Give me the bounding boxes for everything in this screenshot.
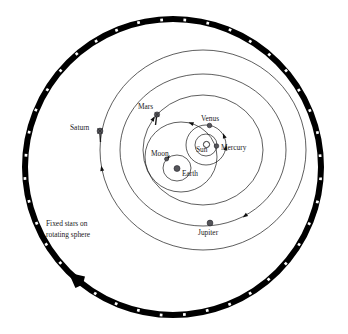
jupiter-direction-arrow	[243, 213, 248, 218]
moon-label: Moon	[151, 149, 169, 158]
star-dot	[160, 18, 163, 21]
venus-direction-arrow-2	[223, 133, 227, 139]
saturn-direction-arrow	[100, 166, 104, 172]
saturn-stem	[100, 134, 101, 142]
star-dot	[319, 177, 322, 180]
mars-stem	[156, 117, 157, 125]
sun-body-group: Sun	[196, 141, 210, 154]
moon-body-group: Moon	[151, 149, 169, 161]
sphere-band	[25, 19, 321, 315]
fixed-stars-sphere	[23, 18, 321, 316]
venus-label: Venus	[201, 114, 219, 123]
star-dot	[25, 154, 28, 157]
star-dot	[160, 314, 163, 317]
sun-label: Sun	[196, 145, 208, 154]
star-dot	[23, 177, 26, 180]
sun-direction-arrow	[188, 122, 194, 126]
earth-marker	[174, 166, 180, 172]
mars-direction-arrow	[150, 116, 154, 122]
earth-body-group: Earth	[174, 166, 198, 179]
star-dot	[183, 19, 186, 22]
caption-line-2: rotating sphere	[46, 230, 91, 239]
star-dot	[183, 313, 186, 316]
venus-body-group: Venus	[201, 114, 219, 128]
mercury-body-group: Mercury	[214, 143, 247, 152]
earth-label: Earth	[182, 169, 198, 178]
diagram-canvas: SunMercuryVenusEarthMoonMarsJupiterSatur…	[0, 0, 348, 334]
jupiter-marker	[207, 220, 213, 226]
venus-marker	[207, 123, 212, 128]
jupiter-body-group: Jupiter	[198, 220, 219, 237]
tychonic-system-diagram: SunMercuryVenusEarthMoonMarsJupiterSatur…	[0, 0, 348, 334]
star-dot	[319, 154, 322, 157]
celestial-body-group: SunMercuryVenusEarthMoonMarsJupiterSatur…	[70, 102, 247, 237]
saturn-body-group: Saturn	[70, 123, 103, 134]
fixed-stars-caption: Fixed stars on rotating sphere	[46, 219, 91, 239]
mars-label: Mars	[138, 102, 153, 111]
mars-body-group: Mars	[138, 102, 160, 117]
caption-line-1: Fixed stars on	[46, 219, 88, 228]
jupiter-label: Jupiter	[198, 228, 219, 237]
mercury-marker	[214, 144, 219, 149]
mercury-label: Mercury	[221, 143, 247, 152]
saturn-label: Saturn	[70, 123, 90, 132]
